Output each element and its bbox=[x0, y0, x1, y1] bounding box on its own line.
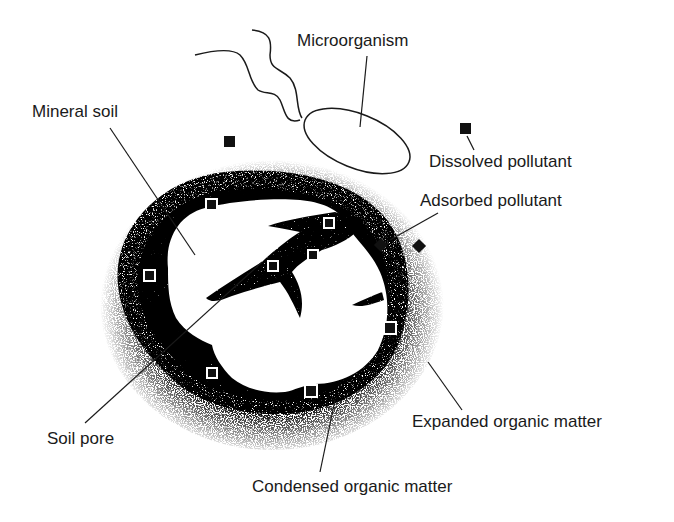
label-mineral-soil: Mineral soil bbox=[32, 103, 118, 120]
adsorbed-pollutant-square bbox=[268, 261, 278, 271]
adsorbed-pollutant-square bbox=[384, 322, 396, 334]
flagellum-icon bbox=[252, 30, 302, 118]
label-condensed-organic-matter: Condensed organic matter bbox=[252, 478, 452, 495]
label-dissolved-pollutant: Dissolved pollutant bbox=[429, 153, 572, 170]
dissolved-pollutant-square bbox=[460, 123, 471, 134]
leader-expanded-organic-matter bbox=[428, 362, 462, 410]
label-soil-pore: Soil pore bbox=[47, 430, 114, 447]
flagellum-icon bbox=[195, 50, 300, 121]
label-adsorbed-pollutant: Adsorbed pollutant bbox=[420, 192, 562, 209]
leader-microorganism bbox=[360, 56, 367, 127]
label-microorganism: Microorganism bbox=[297, 32, 408, 49]
dissolved-pollutant-square bbox=[224, 136, 235, 147]
adsorbed-pollutant-square bbox=[324, 218, 334, 228]
adsorbed-pollutant-square bbox=[308, 250, 318, 260]
adsorbed-pollutant-square bbox=[207, 368, 217, 378]
label-expanded-organic-matter: Expanded organic matter bbox=[412, 413, 602, 430]
leader-dissolved-pollutant bbox=[467, 136, 474, 150]
adsorbed-pollutant-square bbox=[144, 270, 155, 281]
adsorbed-pollutant-square bbox=[206, 199, 217, 210]
adsorbed-pollutant-square bbox=[305, 385, 317, 397]
